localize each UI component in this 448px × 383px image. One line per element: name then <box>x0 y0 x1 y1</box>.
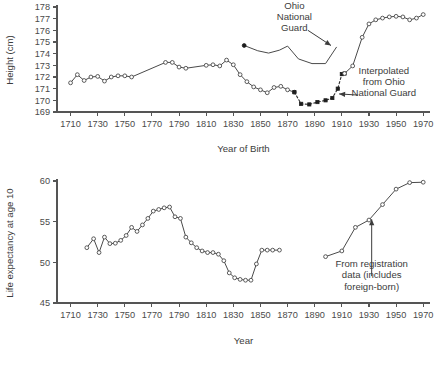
data-point[interactable] <box>108 242 112 246</box>
interpolated-annotation: Interpolatedfrom OhioNational Guard <box>339 65 416 98</box>
data-point[interactable] <box>351 64 355 68</box>
data-point[interactable] <box>89 75 93 79</box>
data-point[interactable] <box>92 237 96 241</box>
data-point[interactable] <box>374 18 378 22</box>
data-point[interactable] <box>195 246 199 250</box>
data-point[interactable] <box>119 238 123 242</box>
data-point[interactable] <box>272 86 276 90</box>
data-point[interactable] <box>421 180 425 184</box>
data-point[interactable] <box>184 66 188 70</box>
data-point[interactable] <box>271 248 275 252</box>
two-panel-line-chart: 1710173017501770179018101830185018701890… <box>0 0 448 383</box>
data-point[interactable] <box>278 248 282 252</box>
data-point[interactable] <box>415 16 419 20</box>
data-point[interactable] <box>259 88 263 92</box>
data-point[interactable] <box>331 96 334 99</box>
data-point[interactable] <box>109 75 113 79</box>
data-point[interactable] <box>324 255 328 259</box>
data-point[interactable] <box>260 248 264 252</box>
y-tick-label: 60 <box>40 176 50 186</box>
data-point[interactable] <box>249 278 253 282</box>
data-point[interactable] <box>300 102 303 105</box>
data-point[interactable] <box>252 85 256 89</box>
data-point[interactable] <box>394 187 398 191</box>
data-point[interactable] <box>141 223 145 227</box>
data-point[interactable] <box>336 87 339 90</box>
data-point[interactable] <box>244 278 248 282</box>
data-point[interactable] <box>265 91 269 95</box>
data-point[interactable] <box>381 16 385 20</box>
data-point[interactable] <box>85 246 89 250</box>
data-point[interactable] <box>225 58 229 62</box>
data-point[interactable] <box>69 81 73 85</box>
data-point[interactable] <box>421 13 425 17</box>
data-point[interactable] <box>164 61 168 65</box>
data-point[interactable] <box>162 206 166 210</box>
data-point[interactable] <box>401 15 405 19</box>
data-point[interactable] <box>135 230 139 234</box>
data-point[interactable] <box>238 278 242 282</box>
data-point[interactable] <box>360 35 364 39</box>
data-point[interactable] <box>211 63 215 67</box>
data-point[interactable] <box>103 235 107 239</box>
data-point[interactable] <box>367 22 371 26</box>
data-point[interactable] <box>367 218 371 222</box>
data-point[interactable] <box>233 276 237 280</box>
data-point[interactable] <box>179 217 183 221</box>
data-point[interactable] <box>316 100 319 103</box>
data-point[interactable] <box>130 75 134 79</box>
data-point[interactable] <box>340 249 344 253</box>
data-point[interactable] <box>146 217 150 221</box>
data-point[interactable] <box>157 208 161 212</box>
data-point[interactable] <box>173 215 177 219</box>
data-point[interactable] <box>293 91 296 94</box>
y-tick-label: 169 <box>35 107 50 117</box>
data-point[interactable] <box>408 18 412 22</box>
data-point[interactable] <box>245 80 249 84</box>
data-point[interactable] <box>381 203 385 207</box>
data-point[interactable] <box>217 252 221 256</box>
data-point[interactable] <box>354 225 358 229</box>
data-point[interactable] <box>103 79 107 83</box>
data-point[interactable] <box>168 205 172 209</box>
data-point[interactable] <box>408 181 412 185</box>
data-point[interactable] <box>238 73 242 77</box>
data-point[interactable] <box>231 63 235 67</box>
data-point[interactable] <box>124 234 128 238</box>
data-point[interactable] <box>184 235 188 239</box>
data-point[interactable] <box>324 99 327 102</box>
data-point[interactable] <box>254 262 258 266</box>
data-point[interactable] <box>96 75 100 79</box>
data-point[interactable] <box>177 65 181 69</box>
data-point[interactable] <box>82 79 86 83</box>
y-tick-label: 55 <box>40 217 50 227</box>
data-point[interactable] <box>113 241 117 245</box>
data-point[interactable] <box>75 73 79 77</box>
data-point[interactable] <box>189 241 193 245</box>
data-point[interactable] <box>265 248 269 252</box>
data-point[interactable] <box>279 84 283 88</box>
data-point[interactable] <box>206 251 210 255</box>
data-point[interactable] <box>227 271 231 275</box>
x-tick-label: 1950 <box>386 310 406 320</box>
data-point[interactable] <box>394 14 398 18</box>
data-point[interactable] <box>204 63 208 67</box>
data-point[interactable] <box>308 103 311 106</box>
data-point[interactable] <box>211 251 215 255</box>
data-point[interactable] <box>218 64 222 68</box>
x-tick-label: 1910 <box>332 119 352 129</box>
y-tick-label: 45 <box>40 298 50 308</box>
data-point[interactable] <box>343 72 347 76</box>
data-point[interactable] <box>200 249 204 253</box>
data-point[interactable] <box>286 88 290 92</box>
data-point[interactable] <box>130 225 134 229</box>
data-point[interactable] <box>387 15 391 19</box>
data-point[interactable] <box>242 44 246 48</box>
data-point[interactable] <box>151 209 155 213</box>
data-point[interactable] <box>116 74 120 78</box>
data-point[interactable] <box>97 251 101 255</box>
data-point[interactable] <box>123 74 127 78</box>
data-point[interactable] <box>222 259 226 263</box>
data-point[interactable] <box>170 61 174 65</box>
x-axis-title: Year <box>234 335 254 346</box>
